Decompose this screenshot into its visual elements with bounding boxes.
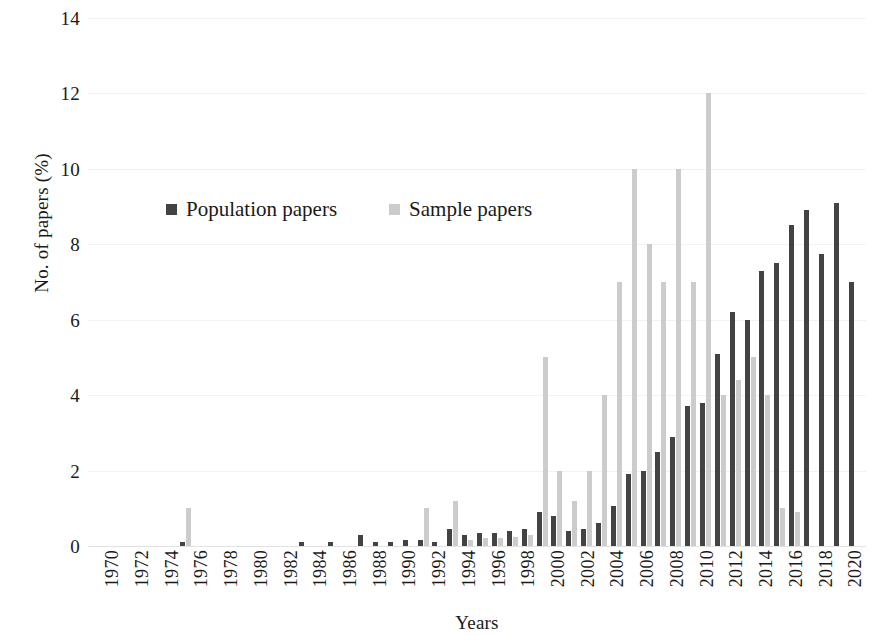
bar-sample-papers [795,512,800,546]
bar-sample-papers [632,169,637,546]
x-tick-label-1996: 1996 [490,550,508,587]
bar-sample-papers [780,508,785,546]
bar-group [507,18,522,546]
bar-population-papers [432,542,437,546]
bar-group [685,18,700,546]
bar-group [849,18,864,546]
bar-population-papers [299,542,304,546]
bar-population-papers [759,271,764,546]
x-tick-label-1986: 1986 [341,550,359,587]
bar-sample-papers [424,508,429,546]
x-tick-label-2006: 2006 [638,550,656,587]
bar-population-papers [477,533,482,546]
bar-group [432,18,447,546]
bar-group [492,18,507,546]
bar-population-papers [789,225,794,546]
bar-population-papers [626,474,631,546]
bar-population-papers [581,529,586,546]
legend-entry-sample-papers: Sample papers [389,199,532,220]
x-tick-label-2018: 2018 [817,550,835,587]
bar-sample-papers [691,282,696,546]
bar-sample-papers [453,501,458,546]
bar-group [120,18,135,546]
x-tick-label-2012: 2012 [727,550,745,587]
bar-sample-papers [617,282,622,546]
bar-group [655,18,670,546]
bar-sample-papers [528,535,533,546]
bar-population-papers [566,531,571,546]
bar-population-papers [537,512,542,546]
bar-population-papers [373,542,378,546]
x-tick-label-2000: 2000 [549,550,567,587]
bar-population-papers [418,540,423,546]
bar-population-papers [328,542,333,546]
bar-chart-figure: No. of papers (%) 02468101214 Population… [0,0,872,636]
x-tick-label-1976: 1976 [192,550,210,587]
bar-population-papers [462,535,467,546]
x-tick-label-1990: 1990 [400,550,418,587]
x-tick-label-1998: 1998 [519,550,537,587]
x-tick-label-1982: 1982 [282,550,300,587]
bar-group [358,18,373,546]
bar-layer [88,18,866,546]
bar-population-papers [804,210,809,546]
bar-population-papers [685,406,690,546]
x-tick-label-2004: 2004 [608,550,626,587]
bar-group [403,18,418,546]
bar-group [447,18,462,546]
bar-group [254,18,269,546]
bar-population-papers [611,506,616,546]
legend-label-sample-papers: Sample papers [409,199,532,220]
bar-group [224,18,239,546]
bar-group [239,18,254,546]
bar-group [210,18,225,546]
x-tick-label-1972: 1972 [133,550,151,587]
bar-population-papers [641,471,646,546]
bar-group [462,18,477,546]
y-tick-label-4: 4 [20,386,80,405]
bar-group [551,18,566,546]
bar-group [804,18,819,546]
bar-group [328,18,343,546]
x-tick-label-1994: 1994 [460,550,478,587]
bar-group [745,18,760,546]
bar-sample-papers [647,244,652,546]
bar-group [195,18,210,546]
bar-population-papers [522,529,527,546]
bar-population-papers [819,254,824,546]
x-tick-label-1980: 1980 [252,550,270,587]
bar-sample-papers [676,169,681,546]
bar-group [91,18,106,546]
bar-group [150,18,165,546]
bar-sample-papers [721,395,726,546]
bar-sample-papers [543,357,548,546]
x-axis-title: Years [88,612,866,634]
bar-population-papers [388,542,393,546]
bar-population-papers [700,403,705,546]
y-tick-label-10: 10 [20,159,80,178]
bar-population-papers [551,516,556,546]
bar-group [418,18,433,546]
bar-sample-papers [765,395,770,546]
bar-group [343,18,358,546]
bar-group [700,18,715,546]
bar-group [522,18,537,546]
bar-group [626,18,641,546]
x-tick-label-2014: 2014 [757,550,775,587]
y-tick-label-8: 8 [20,235,80,254]
bar-population-papers [849,282,854,546]
bar-group [759,18,774,546]
bar-group [135,18,150,546]
bar-group [670,18,685,546]
legend-entry-population-papers: Population papers [166,199,337,220]
bar-group [284,18,299,546]
x-tick-label-2008: 2008 [668,550,686,587]
bar-sample-papers [736,380,741,546]
x-tick-label-1984: 1984 [311,550,329,587]
bar-population-papers [358,535,363,546]
bar-population-papers [180,542,185,546]
bar-sample-papers [483,538,488,546]
y-tick-label-14: 14 [20,9,80,28]
bar-group [819,18,834,546]
x-tick-label-2016: 2016 [787,550,805,587]
